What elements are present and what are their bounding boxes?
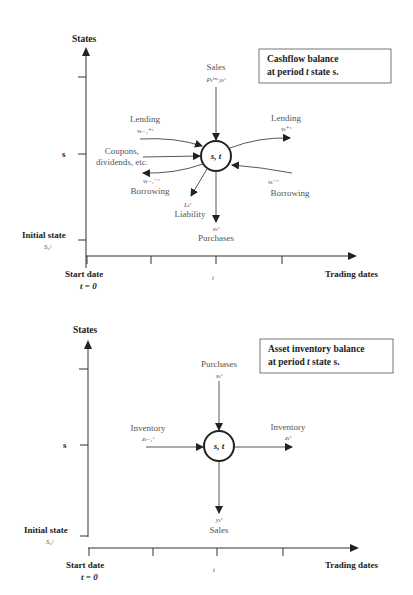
borrowing-in-arrow [232,165,292,173]
diagram-canvas: States s Initial state S₀ʲ Start date t … [0,0,413,595]
borrowing-out-label: Borrowing [131,186,170,196]
purchases-flow: xₜˢ Purchases [198,171,234,243]
title-line-2: at period t state s. [268,357,340,367]
cashflow-title-box: Cashflow balance at period t state s. [259,49,391,83]
lending-in-arrow [140,139,202,146]
coupons-label-1: Coupons, [105,146,139,156]
sales-label: Sales [210,525,229,535]
sales-symbol: yₜˢ [215,516,223,524]
liability-symbol: Lₜˢ [183,201,192,209]
inventory-in-flow: Inventory zₜ₋₁ˢ [131,423,204,447]
purchases-label: Purchases [198,233,234,243]
cashflow-diagram: States s Initial state S₀ʲ Start date t … [22,34,391,291]
state-node: s, t [204,431,234,461]
initial-state-symbol: S₀ʲ [44,243,52,251]
trading-dates-axis: Start date t = 0 t Trading dates [65,252,379,291]
purchases-symbol: xₜˢ [215,372,223,380]
lending-in-label: Lending [130,114,160,124]
lending-out-flow: Lending vₜ⁺ˢ [230,113,301,148]
coupons-flow: Coupons, dividends, etc. [96,146,200,167]
node-label: s, t [210,151,222,161]
borrowing-in-flow: vₜ⁻ˢ Borrowing [232,165,310,198]
coupons-arrow [143,156,200,157]
purchases-symbol: xₜˢ [212,225,220,233]
states-axis: States s Initial state S₀ʲ [22,34,97,268]
sales-symbol: Pₜʰᵐ yₜˢ [206,76,226,84]
trading-dates-axis: Start date t = 0 t Trading dates [66,544,379,582]
liability-flow: Lₜˢ Liability [175,169,208,219]
start-date-value: t = 0 [81,572,98,582]
sales-flow: yₜˢ Sales [210,461,229,535]
y-axis-arrow-icon [84,340,92,349]
x-axis-arrow-icon [348,252,357,260]
node-label: s, t [213,441,225,451]
purchases-flow: Purchases xₜˢ [201,359,237,430]
borrowing-in-symbol: vₜ⁻ˢ [268,178,279,186]
inventory-in-label: Inventory [131,423,166,433]
coupons-label-2: dividends, etc. [96,157,148,167]
inventory-out-symbol: zₜˢ [284,434,291,442]
initial-state-label: Initial state [24,525,68,535]
initial-state-label: Initial state [22,230,66,240]
lending-out-arrow [230,138,290,148]
title-line-2: at period t state s. [267,67,339,77]
t-tick-label: t [213,566,216,574]
inventory-in-symbol: zₜ₋₁ˢ [141,435,155,443]
sales-label: Sales [207,62,226,72]
lending-in-symbol: vₜ₋₁⁺ˢ [137,127,154,135]
sales-flow: Sales Pₜʰᵐ yₜˢ [206,62,226,140]
x-axis-label: Trading dates [325,269,379,279]
inventory-title-box: Asset inventory balance at period t stat… [260,339,393,373]
liability-arrow [191,169,207,196]
purchases-label: Purchases [201,359,237,369]
inventory-out-label: Inventory [271,422,306,432]
borrowing-out-arrow [143,164,203,173]
start-date-value: t = 0 [80,281,97,291]
state-tick-label: s [63,440,67,450]
liability-label: Liability [175,209,206,219]
y-axis-arrow-icon [82,47,90,56]
state-node: s, t [201,141,231,171]
borrowing-in-label: Borrowing [271,188,310,198]
inventory-out-flow: Inventory zₜˢ [235,422,306,447]
inventory-diagram: States s Initial state S₀ʲ Start date t … [24,325,393,582]
state-tick-label: s [62,149,66,159]
y-axis-label: States [72,34,97,44]
x-axis-arrow-icon [350,544,359,552]
t-tick-label: t [212,274,215,282]
lending-out-symbol: vₜ⁺ˢ [281,125,292,133]
lending-out-label: Lending [271,113,301,123]
states-axis: States s Initial state S₀ʲ [24,325,98,546]
title-line-1: Asset inventory balance [268,344,365,354]
start-date-label: Start date [66,560,104,570]
lending-in-flow: Lending vₜ₋₁⁺ˢ [130,114,202,146]
y-axis-label: States [73,325,98,335]
start-date-label: Start date [65,269,103,279]
initial-state-symbol: S₀ʲ [46,538,54,546]
borrowing-out-flow: vₜ₋₁⁻ˢ Borrowing [131,164,204,196]
x-axis-label: Trading dates [325,560,379,570]
title-line-1: Cashflow balance [267,54,339,64]
borrowing-out-symbol: vₜ₋₁⁻ˢ [143,177,160,185]
